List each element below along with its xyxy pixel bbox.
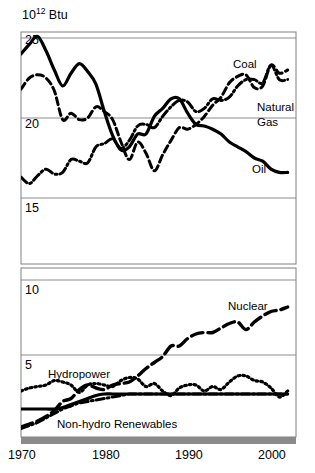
series-label-nonhydro: Non-hydro Renewables <box>57 418 177 431</box>
series-label-natural: Natural <box>257 101 294 114</box>
baseline-band <box>21 437 296 444</box>
energy-consumption-chart: 1012 Btu 25 20 15 10 5 1970 1980 1990 20… <box>0 0 315 473</box>
y-tick-20: 20 <box>25 118 39 131</box>
x-tick-1970: 1970 <box>8 449 36 462</box>
series-label-gas: Gas <box>257 116 278 129</box>
lower-panel-background <box>21 268 296 437</box>
series-label-oil: Oil <box>252 163 266 176</box>
y-tick-5: 5 <box>25 359 32 372</box>
y-tick-25: 25 <box>25 34 39 47</box>
x-tick-2000: 2000 <box>258 449 286 462</box>
series-label-hydropower: Hydropower <box>48 368 110 381</box>
y-tick-10: 10 <box>25 284 39 297</box>
y-tick-15: 15 <box>25 202 39 215</box>
series-label-nuclear: Nuclear <box>228 300 268 313</box>
plot-area <box>0 0 315 473</box>
x-tick-1990: 1990 <box>175 449 203 462</box>
x-tick-1980: 1980 <box>92 449 120 462</box>
series-label-coal: Coal <box>233 58 257 71</box>
